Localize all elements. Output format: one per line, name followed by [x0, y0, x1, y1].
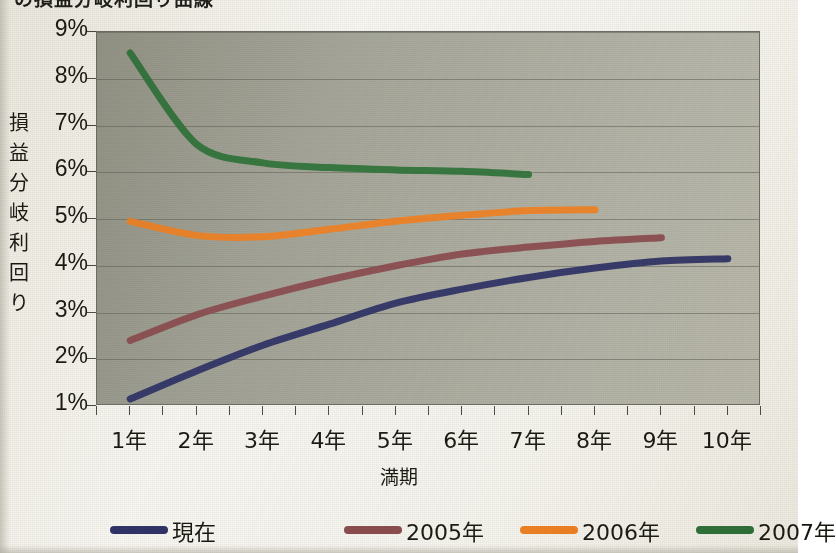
x-tick-label: 8年: [561, 422, 627, 454]
x-tick-mark-center: [328, 406, 329, 415]
x-tick-mark: [494, 406, 495, 415]
legend-label: 2007年: [758, 514, 836, 546]
x-tick-label: 10年: [694, 422, 760, 454]
x-tick-label: 3年: [229, 422, 295, 454]
legend-swatch: [110, 526, 168, 534]
x-tick-mark: [694, 406, 695, 415]
x-tick-label: 1年: [96, 422, 162, 454]
legend-item[interactable]: 2007年: [696, 514, 836, 546]
legend-item[interactable]: 2005年: [344, 514, 484, 546]
x-tick-mark-center: [660, 406, 661, 415]
x-tick-mark: [760, 406, 761, 415]
x-tick-mark: [362, 406, 363, 415]
x-tick-label: 7年: [495, 422, 561, 454]
x-tick-mark: [295, 406, 296, 415]
legend-swatch: [344, 526, 402, 534]
x-tick-mark: [561, 406, 562, 415]
x-tick-mark: [229, 406, 230, 415]
legend-label: 2005年: [406, 514, 484, 546]
x-tick-label: 2年: [163, 422, 229, 454]
legend-label: 2006年: [582, 514, 660, 546]
chart-legend: 現在2005年2006年2007年: [96, 512, 786, 546]
x-tick-label: 9年: [627, 422, 693, 454]
x-tick-mark: [428, 406, 429, 415]
x-tick-mark-center: [196, 406, 197, 415]
x-tick-label: 5年: [362, 422, 428, 454]
x-tick-mark-center: [528, 406, 529, 415]
x-tick-mark: [96, 406, 97, 415]
x-tick-mark-center: [395, 406, 396, 415]
legend-item[interactable]: 現在: [110, 514, 216, 546]
x-tick-mark-center: [461, 406, 462, 415]
x-tick-mark: [162, 406, 163, 415]
x-tick-mark-center: [727, 406, 728, 415]
x-tick-mark-center: [129, 406, 130, 415]
legend-swatch: [520, 526, 578, 534]
x-tick-label: 6年: [428, 422, 494, 454]
x-tick-mark-center: [594, 406, 595, 415]
x-tick-mark: [627, 406, 628, 415]
x-tick-mark-center: [262, 406, 263, 415]
legend-item[interactable]: 2006年: [520, 514, 660, 546]
x-axis-title: 満期: [0, 462, 798, 489]
x-tick-label: 4年: [295, 422, 361, 454]
legend-label: 現在: [172, 514, 216, 546]
legend-swatch: [696, 526, 754, 534]
